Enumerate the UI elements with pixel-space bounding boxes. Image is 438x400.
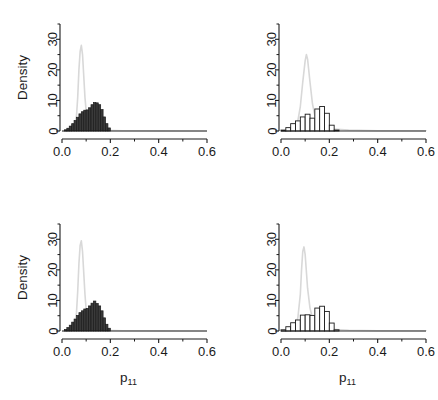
y-axis-title: Density [15, 255, 30, 300]
histogram-bar [74, 319, 76, 331]
x-tick-label: 0.2 [101, 144, 119, 159]
y-tick-label: 10 [46, 293, 61, 307]
histogram-bar [325, 113, 330, 131]
histogram-figure: 01020300.00.20.40.6Density01020300.00.20… [0, 0, 438, 400]
histogram-bar [106, 324, 108, 331]
y-tick-label: 20 [46, 263, 61, 277]
plot-area-top-left: 01020300.00.20.40.6Density [0, 0, 219, 200]
x-tick-label: 0.2 [320, 144, 338, 159]
x-axis-title: p11 [120, 370, 137, 387]
x-tick-label: 0.4 [369, 144, 387, 159]
plot-area-top-right: 01020300.00.20.40.6 [219, 0, 438, 200]
x-tick-label: 0.6 [417, 344, 435, 359]
histogram-bar [81, 311, 83, 331]
y-tick-label: 30 [265, 32, 280, 46]
x-tick-label: 0.6 [417, 144, 435, 159]
histogram-bar [305, 315, 310, 331]
histogram-bar [325, 311, 330, 331]
x-tick-label: 0.2 [101, 344, 119, 359]
y-tick-label: 10 [265, 293, 280, 307]
y-tick-label: 10 [265, 93, 280, 107]
histogram-bar [310, 315, 315, 331]
histogram-bar [300, 315, 305, 331]
y-tick-label: 0 [265, 127, 280, 134]
histogram-bar [103, 318, 105, 331]
plot-area-bottom-left: 01020300.00.20.40.6Densityp11 [0, 200, 219, 400]
histogram-bar [315, 308, 320, 331]
x-tick-label: 0.0 [272, 344, 290, 359]
histogram-bar [91, 303, 93, 331]
y-tick-label: 10 [46, 93, 61, 107]
histogram-bar [320, 306, 325, 331]
histogram-bar [98, 306, 100, 331]
histogram-bar [96, 303, 98, 331]
histogram-bar [91, 105, 93, 131]
histogram-bar [296, 121, 301, 131]
panel-top-right: 01020300.00.20.40.6 [219, 0, 438, 200]
histogram-bar [305, 114, 310, 131]
histogram-bar [101, 311, 103, 331]
y-tick-label: 30 [265, 232, 280, 246]
y-tick-label: 30 [46, 232, 61, 246]
x-axis-title-subscript: 11 [128, 377, 137, 387]
y-tick-label: 0 [265, 327, 280, 334]
x-tick-label: 0.0 [272, 144, 290, 159]
x-tick-label: 0.0 [53, 344, 71, 359]
histogram-bar [81, 112, 83, 131]
x-tick-label: 0.4 [369, 344, 387, 359]
x-tick-label: 0.6 [198, 144, 216, 159]
histogram-bar [93, 103, 95, 131]
y-tick-label: 0 [46, 327, 61, 334]
histogram-bar [310, 118, 315, 131]
x-tick-label: 0.6 [198, 344, 216, 359]
histogram-bars [64, 103, 110, 131]
histogram-bar [72, 124, 74, 131]
y-axis-title: Density [15, 55, 30, 100]
histogram-bar [98, 105, 100, 131]
x-tick-label: 0.2 [320, 344, 338, 359]
histogram-bar [291, 323, 296, 331]
histogram-bar [79, 313, 81, 331]
histogram-bar [77, 117, 79, 131]
histogram-bar [296, 320, 301, 331]
panel-top-left: 01020300.00.20.40.6Density [0, 0, 219, 200]
x-axis-title-base: p [120, 370, 128, 385]
histogram-bar [79, 114, 81, 131]
histogram-bar [72, 322, 74, 331]
x-axis-title-subscript: 11 [347, 377, 356, 387]
histogram-bar [315, 109, 320, 131]
y-tick-label: 20 [265, 263, 280, 277]
histogram-bars [281, 107, 339, 131]
y-tick-label: 20 [265, 63, 280, 77]
histogram-bar [300, 117, 305, 131]
histogram-bar [89, 108, 91, 131]
histogram-bar [84, 309, 86, 331]
histogram-bar [69, 325, 71, 331]
histogram-bar [69, 126, 71, 131]
histogram-bar [74, 121, 76, 131]
y-tick-label: 0 [46, 127, 61, 134]
histogram-bar [286, 327, 291, 331]
x-tick-label: 0.0 [53, 144, 71, 159]
histogram-bar [84, 110, 86, 131]
histogram-bar [93, 301, 95, 331]
histogram-bar [108, 128, 110, 131]
histogram-bar [96, 103, 98, 131]
histogram-bar [101, 110, 103, 131]
histogram-bar [329, 323, 334, 331]
plot-area-bottom-right: 01020300.00.20.40.6p11 [219, 200, 438, 400]
x-axis-title-base: p [339, 370, 347, 385]
x-tick-label: 0.4 [150, 144, 168, 159]
histogram-bar [77, 315, 79, 331]
histogram-bar [106, 124, 108, 131]
histogram-bar [286, 128, 291, 131]
x-axis-title: p11 [339, 370, 356, 387]
histogram-bar [103, 117, 105, 131]
histogram-bar [67, 328, 69, 331]
histogram-bar [89, 306, 91, 331]
panel-bottom-left: 01020300.00.20.40.6Densityp11 [0, 200, 219, 400]
panel-bottom-right: 01020300.00.20.40.6p11 [219, 200, 438, 400]
histogram-bar [86, 110, 88, 131]
histogram-bar [86, 308, 88, 331]
y-tick-label: 20 [46, 63, 61, 77]
